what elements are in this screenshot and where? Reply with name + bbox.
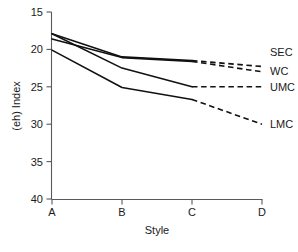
y-tick-label-20: 20 bbox=[31, 43, 43, 55]
x-axis-ticks bbox=[52, 200, 262, 205]
y-axis-ticks bbox=[47, 12, 52, 199]
series-label-lmc: LMC bbox=[270, 118, 293, 130]
x-tick-label-d: D bbox=[258, 206, 266, 218]
series-label-umc: UMC bbox=[270, 81, 295, 93]
x-tick-label-a: A bbox=[48, 206, 56, 218]
chart-svg: 15 20 25 30 35 40 A B C D Style (eh) Ind… bbox=[0, 0, 298, 252]
series-line-wc-dashed bbox=[192, 61, 262, 71]
x-tick-label-b: B bbox=[118, 206, 125, 218]
series-line-wc-solid bbox=[52, 39, 192, 62]
series-line-lmc-dashed bbox=[192, 100, 262, 125]
y-tick-label-35: 35 bbox=[31, 156, 43, 168]
series-label-sec: SEC bbox=[270, 46, 293, 58]
y-tick-label-25: 25 bbox=[31, 81, 43, 93]
y-tick-label-30: 30 bbox=[31, 118, 43, 130]
x-tick-label-c: C bbox=[188, 206, 196, 218]
x-axis-title: Style bbox=[145, 224, 169, 236]
y-axis-title: (eh) Index bbox=[10, 81, 22, 131]
y-tick-label-40: 40 bbox=[31, 193, 43, 205]
series-line-sec-solid bbox=[52, 34, 192, 61]
series-label-wc: WC bbox=[270, 65, 288, 77]
y-tick-label-15: 15 bbox=[31, 6, 43, 18]
line-chart: 15 20 25 30 35 40 A B C D Style (eh) Ind… bbox=[0, 0, 298, 252]
